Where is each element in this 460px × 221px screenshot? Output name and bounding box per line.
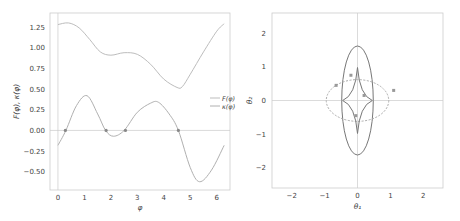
legend-label: F(φ) [222, 95, 235, 103]
x-axis-label: θ₁ [354, 202, 362, 211]
zero-crossing-marker [64, 129, 67, 132]
x-tick-label: 1 [388, 192, 392, 200]
zero-crossing-marker [177, 129, 180, 132]
chart-canvas: 01234561.251.000.750.500.250.00−0.25−0.5… [0, 0, 460, 221]
x-tick-label: 4 [162, 194, 167, 202]
y-tick-label: 0.00 [29, 127, 45, 135]
y-tick-label: −1 [256, 131, 266, 139]
y-tick-label: 2 [262, 30, 266, 38]
y-tick-label: 1 [262, 63, 266, 71]
x-tick-label: −2 [287, 192, 297, 200]
plot-frame [50, 13, 230, 190]
image-point-marker [354, 114, 357, 117]
image-point-marker [392, 89, 395, 92]
y-tick-label: −0.50 [24, 168, 45, 176]
x-tick-label: 2 [421, 192, 425, 200]
x-tick-label: 3 [135, 194, 139, 202]
image-point-marker [363, 94, 366, 97]
y-tick-label: −2 [256, 164, 266, 172]
x-tick-label: 6 [215, 194, 220, 202]
series-line-kappa [58, 95, 224, 181]
zero-crossing-marker [105, 129, 108, 132]
x-tick-label: 1 [82, 194, 86, 202]
left-plot: 01234561.251.000.750.500.250.00−0.25−0.5… [12, 13, 235, 212]
x-tick-label: 0 [56, 194, 60, 202]
zero-crossing-marker [124, 129, 127, 132]
series-line-F [58, 23, 224, 89]
y-tick-label: 0.25 [29, 106, 45, 114]
y-tick-label: 1.00 [29, 44, 45, 52]
legend-label: κ(φ) [222, 103, 235, 111]
x-axis-label: φ [138, 203, 143, 212]
y-tick-label: −0.25 [24, 148, 45, 156]
image-point-marker [349, 74, 352, 77]
x-tick-label: −1 [319, 192, 329, 200]
y-axis-label: θ₂ [245, 97, 254, 105]
y-tick-label: 0.50 [29, 86, 45, 94]
x-tick-label: 5 [188, 194, 192, 202]
y-axis-label: F(φ), κ(φ) [12, 84, 21, 119]
x-tick-label: 2 [109, 194, 113, 202]
y-tick-label: 0 [262, 97, 266, 105]
image-point-marker [335, 84, 338, 87]
x-tick-label: 0 [355, 192, 359, 200]
y-tick-label: 0.75 [29, 65, 45, 73]
y-tick-label: 1.25 [29, 24, 45, 32]
right-plot: −2−1012210−1−2θ₁θ₂ [245, 13, 443, 211]
